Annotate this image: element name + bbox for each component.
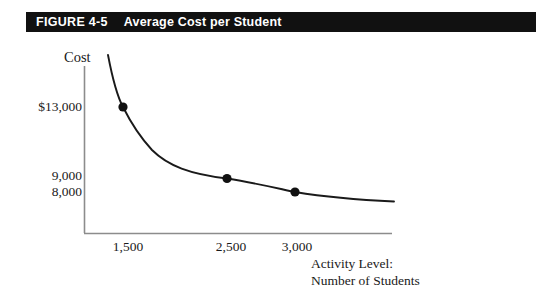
chart-plot-area: Cost $13,000 9,000 8,000 1,500 2,500 3,0… (0, 0, 548, 306)
x-axis-caption: Activity Level: Number of Students (311, 255, 420, 289)
x-tick-label-2500: 2,500 (201, 239, 261, 255)
y-tick-label-8000: 8,000 (12, 184, 82, 200)
data-point-marker-3000 (290, 187, 299, 196)
x-axis-caption-line-1: Activity Level: (311, 255, 420, 272)
chart-svg (0, 0, 548, 306)
figure-container: FIGURE 4-5 Average Cost per Student Cost… (0, 0, 548, 306)
y-axis-title: Cost (64, 49, 91, 66)
x-tick-label-3000: 3,000 (267, 239, 327, 255)
data-point-marker-1500 (118, 102, 127, 111)
y-tick-label-9000: 9,000 (12, 168, 82, 184)
y-tick-label-13000: $13,000 (12, 99, 82, 115)
cost-curve (108, 55, 394, 202)
data-point-marker-2500 (222, 174, 231, 183)
x-tick-label-1500: 1,500 (98, 239, 158, 255)
x-axis-caption-line-2: Number of Students (311, 272, 420, 289)
